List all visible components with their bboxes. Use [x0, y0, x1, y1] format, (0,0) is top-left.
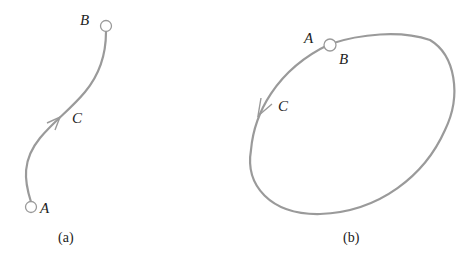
label-b-b: B [339, 51, 348, 68]
path-curve-a [26, 32, 106, 202]
label-a-a: A [40, 200, 49, 217]
path-loop-b [250, 34, 454, 214]
caption-a: (a) [58, 230, 74, 246]
caption-b: (b) [343, 230, 359, 246]
label-c-a: C [72, 110, 82, 127]
point-b-a [101, 21, 112, 32]
label-a-b: A [304, 30, 313, 47]
label-b-a: B [80, 12, 89, 29]
label-c-b: C [278, 98, 288, 115]
point-ab-b [324, 39, 336, 51]
point-a-a [26, 202, 37, 213]
arrow-icon-b [258, 98, 272, 116]
diagram-canvas [0, 0, 467, 258]
